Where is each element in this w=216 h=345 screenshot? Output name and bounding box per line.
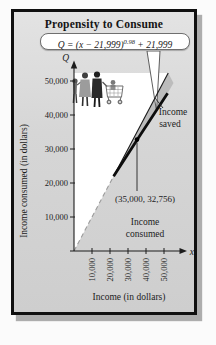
formula-tail: + 21,999 xyxy=(135,40,172,50)
y-tick-40000: 40,000 xyxy=(45,110,68,120)
y-tick-30000: 30,000 xyxy=(45,144,68,154)
plot-area: (35,000, 32,756) Income saved Income con… xyxy=(14,51,194,305)
income-consumed-label-line1: Income xyxy=(131,217,160,227)
formula-callout-box: Q = (x − 21,999)0.98 + 21,999 xyxy=(40,33,190,50)
formula-exponent: 0.98 xyxy=(124,38,135,45)
woman-figure xyxy=(82,73,88,79)
y-tick-20000: 20,000 xyxy=(45,178,68,188)
x-tick-30000: 30,000 xyxy=(123,258,133,281)
x-tick-20000: 20,000 xyxy=(105,258,115,281)
x-axis-title: Income (in dollars) xyxy=(93,292,166,303)
y-axis-symbol: Q xyxy=(62,53,69,63)
income-consumed-label-line2: consumed xyxy=(126,229,165,239)
x-tick-10000: 10,000 xyxy=(87,258,97,281)
figure-card: Propensity to Consume Q = (x − 21,999)0.… xyxy=(11,9,197,315)
x-axis: x 10,000 20,000 30,000 40,000 50,000 Inc… xyxy=(70,247,194,304)
figure-title: Propensity to Consume xyxy=(14,18,194,30)
income-saved-label-line2: saved xyxy=(159,119,181,129)
y-axis-arrow-icon xyxy=(71,61,77,69)
x-tick-50000: 50,000 xyxy=(159,258,169,281)
y-tick-50000: 50,000 xyxy=(45,76,68,86)
x-tick-40000: 40,000 xyxy=(141,258,151,281)
y-axis-title: Income consumed (in dollars) xyxy=(19,124,30,238)
x-axis-arrow-icon xyxy=(180,248,188,254)
income-saved-label-line1: Income xyxy=(159,107,188,117)
y-axis: Q 50,000 40,000 30,000 20,000 10,000 Inc… xyxy=(19,53,77,251)
x-axis-symbol: x xyxy=(189,247,194,257)
marked-point xyxy=(135,137,140,142)
point-label: (35,000, 32,756) xyxy=(115,194,175,204)
y-tick-10000: 10,000 xyxy=(45,212,68,222)
formula-body: Q = (x − 21,999) xyxy=(58,40,124,50)
man-figure xyxy=(94,71,100,77)
